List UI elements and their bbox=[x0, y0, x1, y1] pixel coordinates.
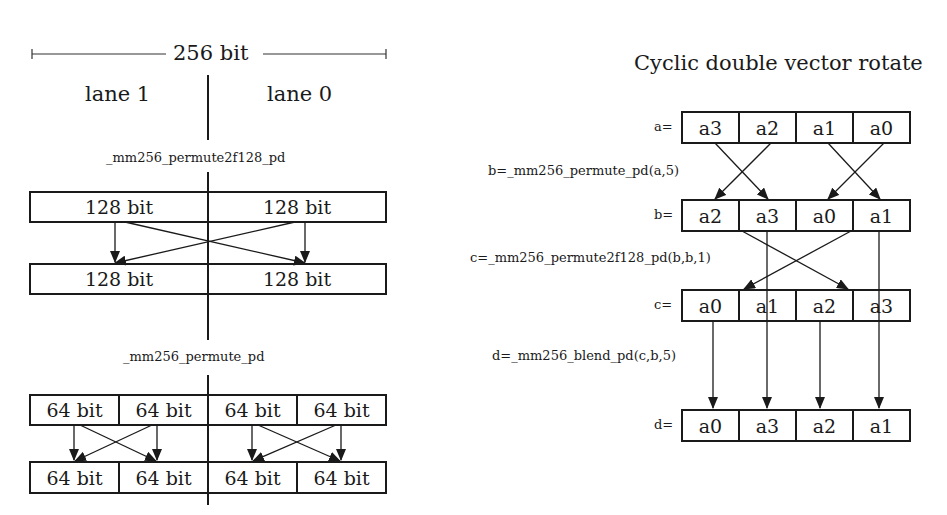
a-cell-0: a3 bbox=[682, 112, 739, 143]
permute-pd-arrows bbox=[715, 143, 884, 199]
op-permute2f128-pd: c=_mm256_permute2f128_pd(b,b,1) bbox=[470, 250, 711, 265]
lane1-128-top: 128 bit bbox=[30, 192, 208, 222]
b-cell-1: a3 bbox=[739, 200, 796, 231]
op-blend-pd: d=_mm256_blend_pd(c,b,5) bbox=[492, 348, 676, 363]
lane-0-label: lane 0 bbox=[267, 82, 332, 106]
elem-64-bottom-0: 64 bit bbox=[297, 462, 386, 493]
b-cell-0: a2 bbox=[682, 200, 739, 231]
elem-64-top-1: 64 bit bbox=[208, 395, 297, 425]
a-cell-1: a2 bbox=[739, 112, 796, 143]
lane-1-label: lane 1 bbox=[85, 82, 150, 106]
elem-64-bottom-3: 64 bit bbox=[30, 462, 119, 493]
d-cell-1: a3 bbox=[739, 410, 796, 441]
d-cell-2: a2 bbox=[796, 410, 853, 441]
c-cell-0: a0 bbox=[682, 290, 739, 321]
permute2f128-title: _mm256_permute2f128_pd bbox=[106, 150, 285, 165]
lane0-128-bottom: 128 bit bbox=[208, 264, 386, 294]
b-cell-2: a0 bbox=[796, 200, 853, 231]
vector-boxes bbox=[682, 112, 910, 441]
op-permute-pd: b=_mm256_permute_pd(a,5) bbox=[488, 163, 679, 178]
elem-64-top-0: 64 bit bbox=[297, 395, 386, 425]
d-cell-3: a1 bbox=[853, 410, 910, 441]
elem-64-top-3: 64 bit bbox=[30, 395, 119, 425]
width-label: 256 bit bbox=[173, 41, 248, 65]
c-cell-2: a2 bbox=[796, 290, 853, 321]
rotate-title: Cyclic double vector rotate bbox=[634, 51, 923, 75]
permute-title: _mm256_permute_pd bbox=[123, 349, 264, 364]
elem-64-bottom-1: 64 bit bbox=[208, 462, 297, 493]
a-cell-2: a1 bbox=[796, 112, 853, 143]
lane1-128-bottom: 128 bit bbox=[30, 264, 208, 294]
d-cell-0: a0 bbox=[682, 410, 739, 441]
c-cell-1: a1 bbox=[739, 290, 796, 321]
a-cell-3: a0 bbox=[853, 112, 910, 143]
elem-64-top-2: 64 bit bbox=[119, 395, 208, 425]
c-cell-3: a3 bbox=[853, 290, 910, 321]
row-b-label: b= bbox=[654, 207, 673, 222]
row-c-label: c= bbox=[654, 297, 672, 312]
permute2f128-arrows bbox=[115, 222, 305, 263]
row-a-label: a= bbox=[654, 119, 673, 134]
permute2f128-pd-arrows bbox=[742, 231, 851, 289]
elem-64-bottom-2: 64 bit bbox=[119, 462, 208, 493]
b-cell-3: a1 bbox=[853, 200, 910, 231]
row-d-label: d= bbox=[654, 417, 673, 432]
lane0-128-top: 128 bit bbox=[208, 192, 386, 222]
